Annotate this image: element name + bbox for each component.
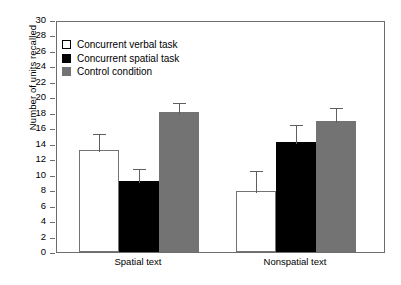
error-bar-cap xyxy=(250,171,263,172)
y-tick-label: 30 xyxy=(0,14,46,25)
legend-label: Concurrent verbal task xyxy=(77,39,178,50)
legend-swatch-icon xyxy=(62,40,71,49)
y-tick-line xyxy=(50,160,55,161)
error-bar-cap xyxy=(93,134,106,135)
y-tick-line xyxy=(50,145,55,146)
y-tick-label: 2 xyxy=(0,231,46,242)
y-tick-line xyxy=(50,36,55,37)
legend-swatch-icon xyxy=(62,67,71,76)
y-tick-label: 8 xyxy=(0,184,46,195)
error-bar-cap xyxy=(330,108,343,109)
y-tick-line xyxy=(50,83,55,84)
x-axis-group-label: Nonspatial text xyxy=(235,256,355,267)
y-tick-line xyxy=(50,222,55,223)
legend-swatch-icon xyxy=(62,54,71,63)
legend-item: Control condition xyxy=(62,65,179,79)
error-bar-cap xyxy=(173,103,186,104)
y-tick-label: 28 xyxy=(0,29,46,40)
y-tick-label: 0 xyxy=(0,246,46,257)
bar xyxy=(79,150,119,252)
y-tick-line xyxy=(50,191,55,192)
error-bar-stem xyxy=(336,108,337,123)
y-tick-line xyxy=(50,114,55,115)
legend-item: Concurrent verbal task xyxy=(62,38,179,52)
chart-legend: Concurrent verbal taskConcurrent spatial… xyxy=(62,38,179,79)
bar xyxy=(236,191,276,252)
error-bar-cap xyxy=(133,169,146,170)
y-tick-label: 26 xyxy=(0,45,46,56)
bar-chart: Number of units recalled 302826242220181… xyxy=(0,0,401,285)
y-tick-label: 18 xyxy=(0,107,46,118)
y-tick-label: 20 xyxy=(0,91,46,102)
y-tick-label: 24 xyxy=(0,60,46,71)
y-tick-line xyxy=(50,253,55,254)
bar xyxy=(276,142,316,252)
y-tick-label: 12 xyxy=(0,153,46,164)
y-tick-label: 4 xyxy=(0,215,46,226)
bar xyxy=(159,112,199,252)
legend-label: Concurrent spatial task xyxy=(77,53,179,64)
y-tick-label: 14 xyxy=(0,138,46,149)
y-tick-line xyxy=(50,129,55,130)
error-bar-stem xyxy=(296,125,297,144)
legend-item: Concurrent spatial task xyxy=(62,52,179,66)
error-bar-stem xyxy=(139,169,140,183)
y-tick-label: 16 xyxy=(0,122,46,133)
error-bar-stem xyxy=(99,134,100,152)
y-tick-label: 22 xyxy=(0,76,46,87)
y-tick-line xyxy=(50,21,55,22)
legend-label: Control condition xyxy=(77,66,152,77)
y-tick-label: 10 xyxy=(0,169,46,180)
error-bar-cap xyxy=(290,125,303,126)
y-tick-line xyxy=(50,176,55,177)
error-bar-stem xyxy=(256,171,257,193)
bar xyxy=(316,121,356,252)
y-tick-line xyxy=(50,67,55,68)
bar xyxy=(119,181,159,252)
y-tick-line xyxy=(50,98,55,99)
error-bar-stem xyxy=(179,103,180,114)
y-tick-line xyxy=(50,52,55,53)
x-axis-group-label: Spatial text xyxy=(78,256,198,267)
y-tick-label: 6 xyxy=(0,200,46,211)
y-tick-line xyxy=(50,238,55,239)
y-tick-line xyxy=(50,207,55,208)
